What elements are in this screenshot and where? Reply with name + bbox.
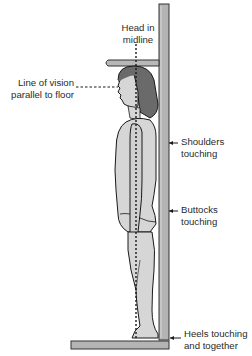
stadiometer-backboard xyxy=(159,4,169,340)
arrow-shoulders-icon xyxy=(169,141,178,145)
label-head-in-midline: Head in midline xyxy=(112,22,164,46)
label-shoulders-touching: Shoulders touching xyxy=(181,136,224,160)
stadiometer-headpiece xyxy=(106,60,159,66)
label-heels-touching: Heels touching and together xyxy=(184,328,247,352)
arrow-heels-icon xyxy=(170,336,181,340)
label-buttocks-touching: Buttocks touching xyxy=(181,204,218,228)
arrow-buttocks-icon xyxy=(169,209,178,213)
stadiometer-base xyxy=(71,341,169,349)
label-line-of-vision: Line of vision parallel to floor xyxy=(2,77,74,101)
height-measurement-diagram: Head in midline Line of vision parallel … xyxy=(0,0,252,356)
